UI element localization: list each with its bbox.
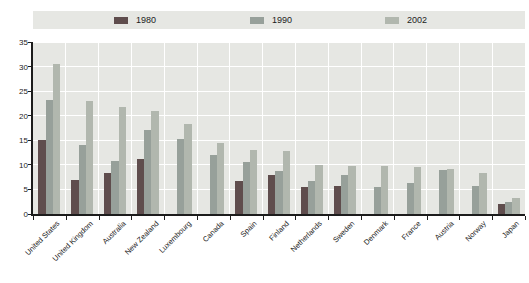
- bar-2002-norway: [479, 173, 486, 214]
- x-tick: [263, 216, 264, 220]
- bar-1990-spain: [243, 162, 250, 214]
- y-tick-label: 35: [6, 38, 28, 47]
- bar-1990-norway: [472, 186, 479, 214]
- x-tick: [295, 216, 296, 220]
- x-tick: [99, 216, 100, 220]
- x-tick: [525, 216, 526, 220]
- x-tick: [164, 216, 165, 220]
- gridline-horizontal: [33, 164, 525, 165]
- gridline-vertical: [459, 42, 460, 214]
- y-tick: [28, 66, 31, 67]
- y-tick: [28, 115, 31, 116]
- bar-1980-sweden: [334, 186, 341, 214]
- bar-1990-denmark: [374, 187, 381, 214]
- bar-1980-netherlands: [301, 187, 308, 214]
- gridline-vertical: [328, 42, 329, 214]
- bar-1980-australia: [104, 173, 111, 214]
- gridline-horizontal: [33, 91, 525, 92]
- bar-1990-sweden: [341, 175, 348, 214]
- x-tick-label-austria: Austria: [432, 219, 455, 242]
- y-tick: [28, 140, 31, 141]
- bar-1990-united-states: [46, 100, 53, 215]
- legend-label-2002: 2002: [407, 15, 427, 25]
- bar-2002-united-states: [53, 64, 60, 214]
- x-tick-label-france: France: [400, 219, 423, 242]
- legend-label-1990: 1990: [272, 15, 292, 25]
- legend-item-1990: 1990: [250, 11, 292, 29]
- y-tick: [28, 214, 31, 215]
- y-axis-line: [31, 42, 33, 216]
- bar-2002-denmark: [381, 166, 388, 214]
- legend-label-1980: 1980: [136, 15, 156, 25]
- x-tick: [394, 216, 395, 220]
- bar-2002-canada: [217, 143, 224, 214]
- y-tick-label: 25: [6, 87, 28, 96]
- bar-2002-finland: [283, 151, 290, 214]
- bar-1980-finland: [268, 175, 275, 214]
- x-tick-label-japan: Japan: [500, 219, 521, 240]
- gridline-vertical: [197, 42, 198, 214]
- legend: 1980 1990 2002: [33, 11, 525, 29]
- y-tick: [28, 189, 31, 190]
- bar-2002-sweden: [348, 166, 355, 214]
- gridline-vertical: [98, 42, 99, 214]
- gridline-horizontal: [33, 140, 525, 141]
- bar-1980-japan: [498, 204, 505, 214]
- bar-2002-netherlands: [315, 165, 322, 214]
- gridline-vertical: [229, 42, 230, 214]
- bar-1990-new-zealand: [144, 130, 151, 214]
- legend-item-1980: 1980: [114, 11, 156, 29]
- y-tick-label: 30: [6, 62, 28, 71]
- x-tick: [197, 216, 198, 220]
- x-tick: [33, 216, 34, 220]
- legend-swatch-1990: [250, 17, 264, 24]
- x-tick: [230, 216, 231, 220]
- bar-1980-new-zealand: [137, 159, 144, 214]
- y-tick-label: 0: [6, 210, 28, 219]
- bar-2002-luxembourg: [184, 124, 191, 214]
- x-tick: [131, 216, 132, 220]
- x-tick-label-norway: Norway: [464, 219, 488, 243]
- bar-1990-france: [407, 183, 414, 214]
- bar-1980-united-states: [38, 140, 45, 214]
- x-tick: [66, 216, 67, 220]
- x-tick-label-denmark: Denmark: [362, 219, 390, 247]
- bar-1990-japan: [505, 202, 512, 214]
- bar-1990-austria: [439, 170, 446, 214]
- x-tick-label-spain: Spain: [239, 219, 259, 239]
- bar-2002-spain: [250, 150, 257, 214]
- grouped-bar-chart: 1980 1990 2002 05101520253035 United Sta…: [0, 0, 529, 283]
- bar-2002-australia: [119, 107, 126, 214]
- gridline-horizontal: [33, 42, 525, 43]
- y-tick-label: 5: [6, 185, 28, 194]
- bar-2002-new-zealand: [151, 111, 158, 214]
- y-tick-label: 15: [6, 136, 28, 145]
- gridline-vertical: [295, 42, 296, 214]
- gridline-vertical: [361, 42, 362, 214]
- gridline-vertical: [262, 42, 263, 214]
- gridline-vertical: [492, 42, 493, 214]
- bar-1990-canada: [210, 155, 217, 214]
- bar-2002-france: [414, 167, 421, 214]
- x-tick: [427, 216, 428, 220]
- legend-item-2002: 2002: [385, 11, 427, 29]
- y-tick: [28, 91, 31, 92]
- bar-2002-japan: [512, 198, 519, 214]
- x-tick-label-finland: Finland: [268, 219, 292, 243]
- gridline-horizontal: [33, 115, 525, 116]
- y-tick: [28, 164, 31, 165]
- bar-1980-spain: [235, 181, 242, 214]
- x-tick-label-new-zealand: New Zealand: [123, 219, 161, 257]
- x-tick: [459, 216, 460, 220]
- bar-1980-united-kingdom: [71, 180, 78, 214]
- gridline-horizontal: [33, 66, 525, 67]
- x-tick-label-luxembourg: Luxembourg: [157, 219, 193, 255]
- legend-swatch-1980: [114, 17, 128, 24]
- x-tick-label-sweden: Sweden: [331, 219, 357, 245]
- y-tick-label: 10: [6, 160, 28, 169]
- plot-area: [33, 42, 525, 214]
- bar-1990-netherlands: [308, 181, 315, 214]
- bar-1990-luxembourg: [177, 139, 184, 214]
- bar-1990-united-kingdom: [79, 145, 86, 214]
- x-axis-line: [31, 214, 525, 216]
